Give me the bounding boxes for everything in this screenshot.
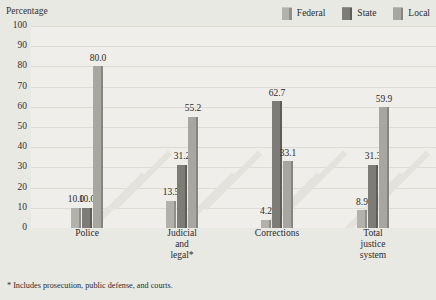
bar-group: 8.931.359.9 (357, 26, 389, 228)
bar-local-0[interactable] (93, 66, 103, 228)
bar-value-label: 8.9 (356, 198, 368, 208)
bar-federal-0[interactable] (71, 208, 81, 228)
bar-chart: Percentage Federal State Local 100908070… (0, 0, 436, 300)
x-axis-labels: PoliceJudicial and legal*CorrectionsTota… (31, 228, 436, 270)
bar-local-2[interactable] (283, 161, 293, 228)
x-axis-label-0: Police (75, 228, 99, 239)
bar-group: 10.010.080.0 (71, 26, 103, 228)
legend-swatch-federal-icon (282, 7, 292, 20)
bar-state-2[interactable] (272, 101, 282, 228)
bar-value-label: 62.7 (269, 89, 286, 99)
x-axis-label-3: Total justice system (360, 228, 386, 261)
y-axis-tick-label: 20 (18, 183, 28, 193)
legend-item-local[interactable]: Local (393, 7, 430, 20)
legend-item-federal[interactable]: Federal (282, 7, 326, 20)
bar-state-3[interactable] (368, 165, 378, 228)
bar-value-label: 59.9 (376, 95, 393, 105)
bar-state-1[interactable] (177, 165, 187, 228)
bar-federal-1[interactable] (166, 201, 176, 228)
bar-value-label: 33.1 (280, 149, 297, 159)
y-axis-tick-label: 10 (18, 203, 28, 213)
chart-footnote: * Includes prosecution, public defense, … (7, 281, 173, 291)
bar-federal-2[interactable] (261, 220, 271, 228)
y-axis: 1009080706050403020100 (0, 26, 31, 228)
y-axis-tick-label: 100 (13, 21, 27, 31)
bar-value-label: 4.2 (260, 207, 272, 217)
bar-value-label: 80.0 (90, 54, 107, 64)
legend-swatch-local-icon (393, 7, 403, 20)
legend-label-local: Local (408, 8, 430, 18)
legend-swatch-state-icon (342, 7, 352, 20)
legend-item-state[interactable]: State (342, 7, 376, 20)
y-axis-tick-label: 60 (18, 102, 28, 112)
y-axis-tick-label: 0 (22, 223, 27, 233)
bar-group: 4.262.733.1 (261, 26, 293, 228)
bar-local-1[interactable] (188, 117, 198, 229)
chart-legend: Federal State Local (265, 5, 430, 21)
y-axis-tick-label: 30 (18, 163, 28, 173)
y-axis-title: Percentage (6, 6, 48, 17)
legend-label-federal: Federal (297, 8, 326, 18)
y-axis-tick-label: 40 (18, 142, 28, 152)
plot-area: 10.010.080.013.531.255.24.262.733.18.931… (31, 26, 436, 228)
bar-groups: 10.010.080.013.531.255.24.262.733.18.931… (31, 26, 436, 228)
bar-federal-3[interactable] (357, 210, 367, 228)
bar-local-3[interactable] (379, 107, 389, 228)
bar-state-0[interactable] (82, 208, 92, 228)
bar-group: 13.531.255.2 (166, 26, 198, 228)
y-axis-tick-label: 90 (18, 41, 28, 51)
y-axis-tick-label: 50 (18, 122, 28, 132)
y-axis-tick-label: 80 (18, 62, 28, 72)
x-axis-label-2: Corrections (255, 228, 299, 239)
bar-value-label: 55.2 (185, 104, 202, 114)
y-axis-tick-label: 70 (18, 82, 28, 92)
x-axis-label-1: Judicial and legal* (167, 228, 197, 261)
legend-label-state: State (357, 8, 376, 18)
